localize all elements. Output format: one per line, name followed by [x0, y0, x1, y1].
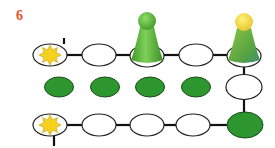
bottom-row	[33, 112, 263, 138]
game-board	[0, 0, 275, 148]
node-filled[interactable]	[182, 77, 211, 97]
green-pawn-icon[interactable]	[131, 12, 163, 63]
node-filled[interactable]	[91, 77, 120, 97]
node-empty[interactable]	[226, 75, 262, 100]
node-filled[interactable]	[227, 112, 263, 138]
node-empty[interactable]	[179, 44, 213, 66]
middle-row	[45, 75, 263, 100]
node-empty[interactable]	[130, 114, 164, 136]
node-empty[interactable]	[176, 114, 210, 136]
yellow-green-pawn-icon[interactable]	[228, 13, 260, 63]
top-row	[33, 12, 261, 67]
node-empty[interactable]	[82, 114, 116, 136]
node-filled[interactable]	[45, 77, 74, 97]
node-empty[interactable]	[82, 44, 116, 66]
node-filled[interactable]	[136, 77, 165, 97]
